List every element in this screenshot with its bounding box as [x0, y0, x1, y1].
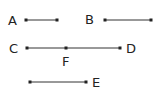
segment-b	[104, 19, 153, 22]
segments-diagram: A B C D F E	[0, 0, 166, 99]
label-f: F	[62, 54, 69, 69]
segment-cd	[26, 47, 122, 50]
label-c: C	[9, 41, 18, 56]
segment-a	[25, 19, 59, 22]
segment-e	[29, 81, 88, 84]
label-b: B	[85, 12, 94, 27]
label-e: E	[92, 75, 100, 90]
label-d: D	[126, 41, 136, 56]
label-a: A	[8, 13, 17, 28]
